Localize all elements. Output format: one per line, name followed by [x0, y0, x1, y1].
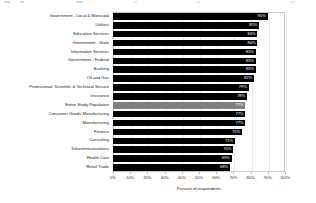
bar-row: Health Care69% — [0, 154, 316, 163]
bar-row: Utilities85% — [0, 21, 316, 30]
bar-row: Manufacturing77% — [0, 119, 316, 128]
bar-value-label: 84% — [113, 40, 257, 47]
bar-row: Banking83% — [0, 65, 316, 74]
bar-track: 75% — [113, 128, 285, 137]
x-tick — [268, 172, 269, 174]
bar-row: Education Services84% — [0, 30, 316, 39]
category-label: Information Services — [4, 48, 109, 57]
category-label: Oil and Gas — [4, 74, 109, 83]
x-tick — [285, 172, 286, 174]
bar-track: 69% — [113, 154, 285, 163]
x-tick — [165, 172, 166, 174]
category-label: Utilities — [4, 21, 109, 30]
bar-chart: Government - Local & Municipal90%Utiliti… — [0, 0, 316, 203]
bar-row: Government - Federal83% — [0, 56, 316, 65]
bar-track: 71% — [113, 136, 285, 145]
bar-track: 83% — [113, 48, 285, 57]
bar-value-label: 83% — [113, 49, 256, 56]
x-tick — [182, 172, 183, 174]
category-label: Government - Federal — [4, 56, 109, 65]
bar-value-label: 82% — [113, 75, 254, 82]
category-label: Government - Local & Municipal — [4, 12, 109, 21]
category-label: Telecommunications — [4, 145, 109, 154]
bar-value-label: 71% — [113, 138, 235, 145]
bar-row: Finance75% — [0, 128, 316, 137]
bar-value-label: 77% — [113, 102, 245, 109]
x-tick — [147, 172, 148, 174]
x-tick-label: 100% — [275, 175, 295, 180]
bar-row: Telecommunications70% — [0, 145, 316, 154]
bar-value-label: 85% — [113, 22, 259, 29]
bar-value-label: 90% — [113, 13, 268, 20]
category-label: Retail Trade — [4, 163, 109, 172]
bar-track: 77% — [113, 101, 285, 110]
chart-title — [0, 0, 316, 9]
bar-row: Government - State84% — [0, 39, 316, 48]
bar-row: Information Services83% — [0, 48, 316, 57]
bar-row: Retail Trade68% — [0, 163, 316, 172]
bar-track: 90% — [113, 12, 285, 21]
bar-value-label: 75% — [113, 129, 242, 136]
category-label: Education Services — [4, 30, 109, 39]
category-label: Entire Study Population — [4, 101, 109, 110]
category-label: Consumer Goods Manufacturing — [4, 110, 109, 119]
bar-track: 68% — [113, 163, 285, 172]
bar-value-label: 83% — [113, 66, 256, 73]
bar-track: 77% — [113, 110, 285, 119]
bar-row: Entire Study Population77% — [0, 101, 316, 110]
bar-value-label: 77% — [113, 111, 245, 118]
x-tick — [251, 172, 252, 174]
category-label: Finance — [4, 128, 109, 137]
category-label: Manufacturing — [4, 119, 109, 128]
bar-row: Insurance78% — [0, 92, 316, 101]
bar-value-label: 69% — [113, 155, 232, 162]
bar-track: 83% — [113, 56, 285, 65]
x-tick — [130, 172, 131, 174]
bar-value-label: 79% — [113, 84, 249, 91]
x-tick — [233, 172, 234, 174]
bar-row: Oil and Gas82% — [0, 74, 316, 83]
x-axis: 0%10%20%30%40%50%60%70%80%90%100% — [113, 172, 285, 182]
bar-track: 84% — [113, 39, 285, 48]
category-label: Banking — [4, 65, 109, 74]
category-label: Health Care — [4, 154, 109, 163]
category-label: Professional, Scientific & Technical Ser… — [4, 83, 109, 92]
bar-value-label: 78% — [113, 93, 247, 100]
bar-value-label: 70% — [113, 146, 233, 153]
bar-track: 70% — [113, 145, 285, 154]
x-tick — [113, 172, 114, 174]
bar-track: 79% — [113, 83, 285, 92]
bar-track: 82% — [113, 74, 285, 83]
bar-track: 84% — [113, 30, 285, 39]
bar-value-label: 77% — [113, 120, 245, 127]
bar-track: 85% — [113, 21, 285, 30]
bar-row: Government - Local & Municipal90% — [0, 12, 316, 21]
x-tick — [216, 172, 217, 174]
x-axis-title: Percent of respondents — [113, 186, 285, 191]
x-tick — [199, 172, 200, 174]
category-label: Insurance — [4, 92, 109, 101]
category-label: Consulting — [4, 136, 109, 145]
bar-track: 78% — [113, 92, 285, 101]
bar-track: 77% — [113, 119, 285, 128]
bar-value-label: 83% — [113, 58, 256, 65]
bar-track: 83% — [113, 65, 285, 74]
category-label: Government - State — [4, 39, 109, 48]
bar-row: Consumer Goods Manufacturing77% — [0, 110, 316, 119]
bar-value-label: 84% — [113, 31, 257, 38]
bar-value-label: 68% — [113, 164, 230, 171]
bar-rows: Government - Local & Municipal90%Utiliti… — [0, 12, 316, 172]
bar-row: Consulting71% — [0, 136, 316, 145]
bar-row: Professional, Scientific & Technical Ser… — [0, 83, 316, 92]
